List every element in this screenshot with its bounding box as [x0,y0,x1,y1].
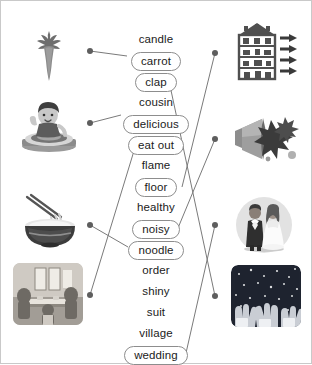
word-item-suit[interactable]: suit [1,304,311,321]
word-item-clap[interactable]: clap [1,73,311,92]
word-pill: eat out [128,136,184,155]
word-pill: floor [135,178,178,197]
word-item-order[interactable]: order [1,262,311,279]
word-item-village[interactable]: village [1,325,311,342]
word-pill: noodle [128,241,183,260]
word-text: order [133,262,178,279]
word-pill: noisy [132,220,179,239]
word-item-flame[interactable]: flame [1,157,311,174]
word-text: village [130,325,181,342]
word-text: cousin [130,94,182,111]
word-pill: clap [135,73,177,92]
word-text: flame [133,157,180,174]
word-text: candle [130,31,183,48]
word-item-floor[interactable]: floor [1,178,311,197]
word-item-delicious[interactable]: delicious [1,115,311,134]
word-item-eat-out[interactable]: eat out [1,136,311,155]
word-text: healthy [128,199,184,216]
word-pill: carrot [131,52,181,71]
word-item-noisy[interactable]: noisy [1,220,311,239]
word-item-wedding[interactable]: wedding [1,346,311,365]
word-item-shiny[interactable]: shiny [1,283,311,300]
word-item-noodle[interactable]: noodle [1,241,311,260]
word-text: shiny [133,283,178,300]
word-text: suit [138,304,174,321]
word-item-cousin[interactable]: cousin [1,94,311,111]
word-item-carrot[interactable]: carrot [1,52,311,71]
word-pill: delicious [123,115,189,134]
word-item-healthy[interactable]: healthy [1,199,311,216]
word-item-candle[interactable]: candle [1,31,311,48]
word-pill: wedding [124,346,188,365]
